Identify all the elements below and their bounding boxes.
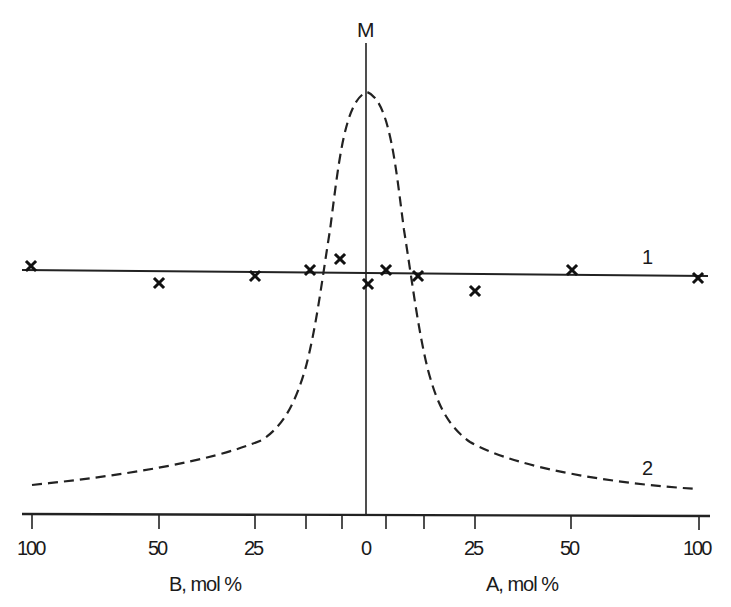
x-axis-line <box>22 514 710 516</box>
tick-label-b25: 25 <box>244 537 262 560</box>
tick-label-a100: 100 <box>683 537 710 560</box>
x-marker <box>568 266 576 274</box>
tick-label-b100: 100 <box>17 537 44 560</box>
tick-label-0: 0 <box>361 537 372 560</box>
chart-area: M 1 2 100 50 25 0 25 50 100 B, mol % A, … <box>0 0 731 607</box>
tick-label-a25: 25 <box>464 537 482 560</box>
tick-label-a50: 50 <box>560 537 578 560</box>
series-2-label: 2 <box>642 457 653 480</box>
x-marker <box>336 255 344 263</box>
chart-svg <box>0 0 731 607</box>
x-marker <box>471 287 479 295</box>
x-axis-label-b: B, mol % <box>169 573 241 596</box>
y-axis-label: M <box>357 18 375 42</box>
tick-label-b50: 50 <box>148 537 166 560</box>
x-marker <box>27 262 35 270</box>
series-1-label: 1 <box>642 246 653 269</box>
x-marker <box>251 272 259 280</box>
series-1-line <box>22 270 708 276</box>
x-marker <box>155 279 163 287</box>
x-axis-label-a: A, mol % <box>486 573 558 596</box>
series-2-curve <box>32 92 697 489</box>
